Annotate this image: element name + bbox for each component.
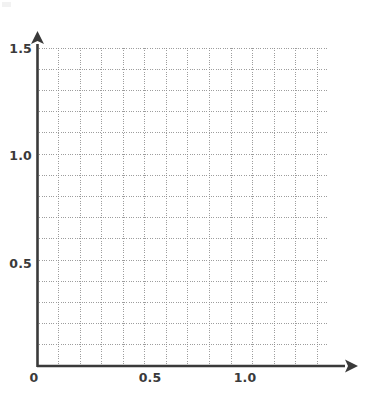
plot-svg bbox=[0, 0, 367, 397]
plot-canvas: 1.5 1.0 0.5 0 0.5 1.0 bbox=[0, 0, 367, 397]
y-tick-label-0_5: 0.5 bbox=[0, 256, 32, 271]
y-tick-label-1_0: 1.0 bbox=[0, 148, 32, 163]
x-tick-label-1_0: 1.0 bbox=[227, 370, 263, 385]
y-axis-arrow-icon bbox=[31, 31, 44, 44]
x-tick-label-0_5: 0.5 bbox=[132, 370, 168, 385]
x-tick-label-0: 0 bbox=[22, 370, 46, 385]
grid-lines bbox=[37, 48, 328, 366]
y-tick-label-1_5: 1.5 bbox=[0, 41, 32, 56]
x-axis-arrow-icon bbox=[345, 360, 358, 373]
